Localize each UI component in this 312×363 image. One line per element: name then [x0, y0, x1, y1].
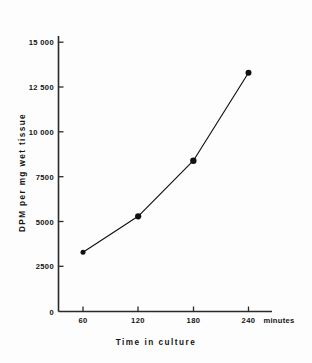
y-axis-tick-labels: 15 000 12 500 10 000 7500 5000 2500 0 [0, 0, 54, 363]
data-point [190, 157, 196, 163]
y-tick-label-2500: 2500 [36, 262, 54, 271]
y-tick-label-7500: 7500 [36, 172, 54, 181]
data-point-markers [81, 70, 252, 255]
x-axis-title: Time in culture [0, 338, 312, 347]
x-tick-label-120: 120 [131, 316, 145, 325]
y-tick-label-0: 0 [49, 307, 54, 316]
x-axis-unit-label: minutes [263, 316, 294, 325]
y-axis-title: DPM per mg wet tissue [18, 73, 27, 273]
y-tick-label-10000: 10 000 [29, 127, 54, 136]
data-series-line [83, 73, 249, 253]
y-tick-label-12500: 12 500 [29, 83, 54, 92]
data-point [81, 250, 86, 255]
data-point [246, 70, 252, 76]
y-tick-label-15000: 15 000 [29, 38, 54, 47]
plot-area: 15 000 12 500 10 000 7500 5000 2500 0 60… [0, 0, 312, 363]
x-tick-label-240: 240 [242, 316, 256, 325]
x-tick-label-60: 60 [78, 316, 87, 325]
figure-container: 15 000 12 500 10 000 7500 5000 2500 0 60… [0, 0, 312, 363]
y-tick-label-5000: 5000 [36, 217, 54, 226]
x-tick-label-180: 180 [187, 316, 201, 325]
data-point [135, 213, 141, 219]
